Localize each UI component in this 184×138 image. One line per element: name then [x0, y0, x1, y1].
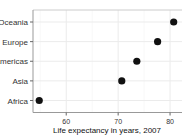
- data-point-oceania: [170, 18, 177, 25]
- x-axis-label: Life expectancy in years, 2007: [53, 126, 162, 135]
- data-point-americas: [133, 58, 140, 65]
- y-tick-label: Europe: [2, 38, 28, 47]
- y-tick-label: Americas: [0, 57, 28, 66]
- y-axis-ticks: AfricaAsiaAmericasEuropeOceania: [0, 18, 33, 106]
- y-tick-label: Oceania: [0, 18, 29, 27]
- y-tick-label: Africa: [8, 97, 29, 106]
- x-tick-label: 80: [166, 118, 174, 125]
- y-tick-label: Asia: [12, 77, 28, 86]
- x-tick-label: 70: [114, 118, 122, 125]
- data-point-asia: [118, 77, 125, 84]
- x-tick-label: 60: [62, 118, 70, 125]
- dot-plot: AfricaAsiaAmericasEuropeOceania 607080 L…: [0, 0, 184, 138]
- data-point-africa: [36, 97, 43, 104]
- data-point-europe: [154, 38, 161, 45]
- x-axis-ticks: 607080: [62, 113, 174, 125]
